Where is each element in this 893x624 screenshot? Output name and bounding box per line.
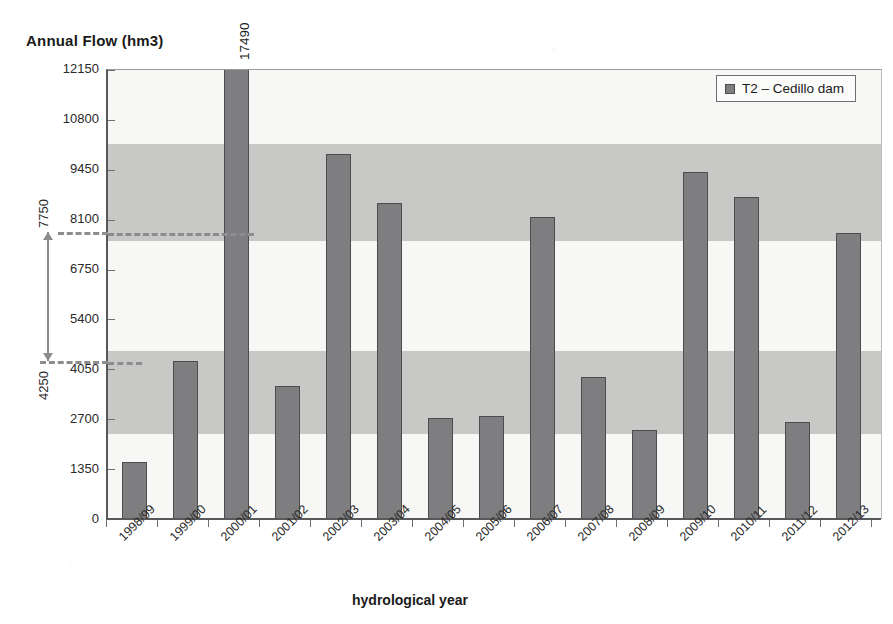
bar-2000-01[interactable]: [224, 70, 249, 519]
x-tick: [463, 520, 464, 527]
x-tick: [208, 520, 209, 527]
x-tick: [820, 520, 821, 527]
x-tick: [106, 520, 107, 527]
x-axis-title: hydrological year: [352, 592, 468, 608]
peak-value-label: 17490: [237, 22, 252, 60]
bar-2012-13[interactable]: [836, 233, 861, 519]
y-axis-labels: 12150 10800 9450 8100 6750 5400 4050 270…: [0, 0, 99, 520]
x-tick: [718, 520, 719, 527]
bar-2004-05[interactable]: [428, 418, 453, 519]
bar-2011-12[interactable]: [785, 422, 810, 519]
bar-2007-08[interactable]: [581, 377, 606, 519]
bar-1999-00[interactable]: [173, 361, 198, 519]
x-tick: [310, 520, 311, 527]
x-tick: [514, 520, 515, 527]
x-tick: [769, 520, 770, 527]
y-tick-label: 2700: [4, 411, 99, 426]
plot-area: T2 – Cedillo dam: [106, 69, 882, 519]
bar-group: [108, 70, 881, 519]
y-tick-label: 10800: [4, 111, 99, 126]
bar-2003-04[interactable]: [377, 203, 402, 519]
x-tick: [157, 520, 158, 527]
reference-line-4250: [108, 362, 142, 365]
x-tick: [616, 520, 617, 527]
x-tick: [871, 520, 872, 527]
bar-2005-06[interactable]: [479, 416, 504, 519]
x-tick: [565, 520, 566, 527]
x-tick: [259, 520, 260, 527]
bar-2006-07[interactable]: [530, 217, 555, 519]
bar-2002-03[interactable]: [326, 154, 351, 520]
y-tick-label: 0: [4, 511, 99, 526]
x-tick: [667, 520, 668, 527]
bar-2009-10[interactable]: [683, 172, 708, 519]
legend-label: T2 – Cedillo dam: [742, 81, 844, 96]
y-tick-label: 12150: [4, 61, 99, 76]
y-tick-label: 4050: [4, 361, 99, 376]
y-tick-label: 8100: [4, 211, 99, 226]
bar-2001-02[interactable]: [275, 386, 300, 519]
x-axis-labels: 1998/99 1999/00 2000/01 2001/02 2002/03 …: [106, 528, 881, 588]
x-tick: [361, 520, 362, 527]
bar-2010-11[interactable]: [734, 197, 759, 519]
reference-line-7750: [108, 233, 254, 236]
y-tick-label: 6750: [4, 261, 99, 276]
square-swatch-icon: [725, 84, 735, 94]
y-tick-label: 1350: [4, 461, 99, 476]
y-tick-label: 9450: [4, 161, 99, 176]
legend: T2 – Cedillo dam: [716, 75, 856, 102]
x-tick: [412, 520, 413, 527]
y-tick-label: 5400: [4, 311, 99, 326]
